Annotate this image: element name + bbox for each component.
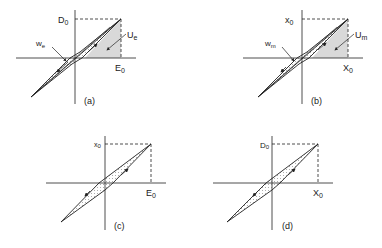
svg-text:X0: X0	[313, 188, 323, 199]
svg-text:wm: wm	[264, 39, 276, 49]
panel-caption: (d)	[282, 221, 293, 231]
panel-caption: (a)	[84, 96, 95, 106]
svg-text:x0: x0	[285, 15, 294, 26]
svg-text:D0: D0	[58, 15, 69, 26]
panel-caption: (b)	[311, 96, 322, 106]
loss-leader	[282, 47, 294, 61]
svg-text:x0: x0	[94, 141, 102, 149]
panel-c: x0 E0 (c)	[46, 136, 166, 231]
panel-a: D0 E0 we Ue (a)	[16, 10, 138, 106]
svg-text:Ue: Ue	[127, 30, 138, 41]
svg-text:we: we	[35, 39, 46, 49]
svg-text:E0: E0	[115, 63, 125, 74]
panel-d: D0 X0 (d)	[213, 136, 333, 231]
loop-branch-inner	[258, 27, 337, 97]
panel-caption: (c)	[114, 221, 125, 231]
hysteresis-figure: D0 E0 we Ue (a) x0 X0 wm Um (b) x0 E0	[0, 0, 382, 248]
panel-b: x0 X0 wm Um (b)	[243, 10, 368, 106]
loop-branch-inner	[31, 27, 110, 97]
loss-leader	[52, 47, 66, 61]
svg-text:E0: E0	[146, 188, 156, 199]
svg-text:D0: D0	[260, 141, 270, 150]
svg-text:Um: Um	[355, 30, 368, 41]
svg-text:X0: X0	[343, 63, 353, 74]
